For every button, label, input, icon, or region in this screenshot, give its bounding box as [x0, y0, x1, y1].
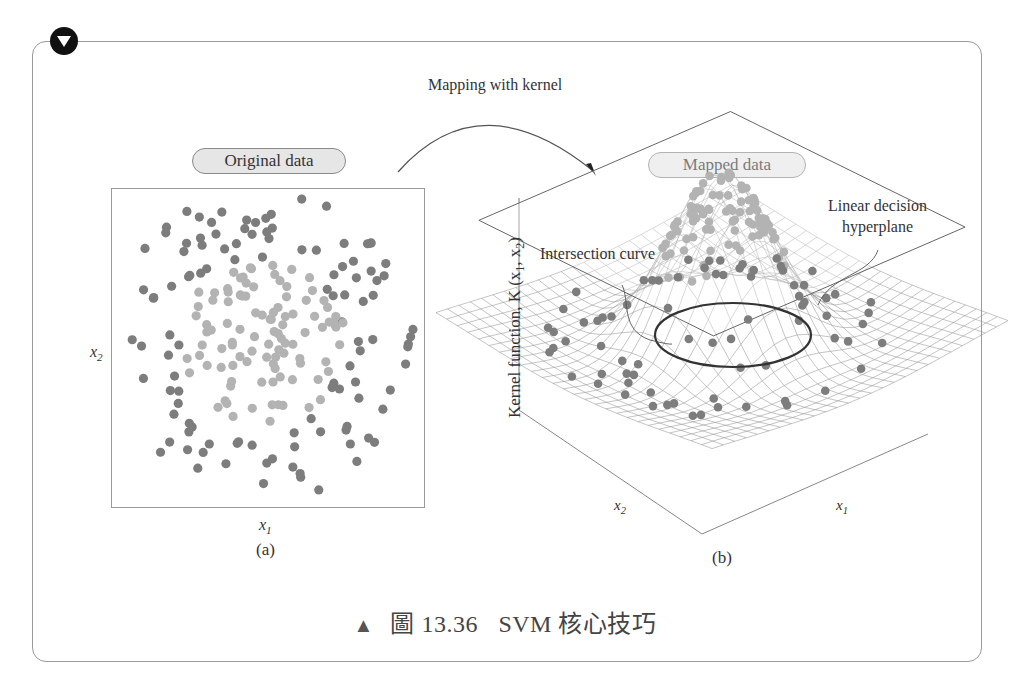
annotation-intersection-curve: Intersection curve	[540, 245, 655, 263]
figure-caption: ▲ 圖 13.36 SVM 核心技巧	[0, 604, 1010, 639]
panel-b-x1-label: x1	[836, 497, 848, 516]
caption-marker-icon: ▲	[354, 614, 374, 636]
caption-figure-number: 圖 13.36	[390, 611, 478, 637]
panel-b-sublabel: (b)	[712, 548, 732, 568]
panel-b-zlabel: Kernel function, K (x1, x2)	[505, 237, 528, 418]
annotation-hyperplane: Linear decision hyperplane	[820, 195, 935, 237]
caption-title: SVM 核心技巧	[498, 611, 656, 637]
panel-b-x2-label: x2	[614, 497, 626, 516]
